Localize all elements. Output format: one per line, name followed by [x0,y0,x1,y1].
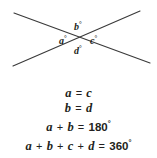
equation-token-var: b [65,101,71,115]
equation-token-op: = [75,87,83,99]
intersecting-lines-svg [0,0,157,82]
equation-list: a = c b = d a + b = 180° a + b + c + d =… [0,86,157,154]
equation-token-deg: ° [128,138,131,147]
equation-token-var: a [65,86,71,100]
equation-token-op: + [77,140,85,152]
angle-label-b: b° [74,21,82,32]
equation-token-num: 360 [109,140,128,152]
equation-token-var: d [86,101,92,115]
equation-token-var: c [68,139,74,153]
degree-symbol: ° [94,34,97,42]
equation-token-var: a [26,139,32,153]
equation-eq-4: a + b + c + d = 360° [0,135,157,154]
equation-token-var: a [46,120,52,134]
equation-token-var: b [47,139,53,153]
equation-token-op: = [74,102,82,114]
degree-symbol: ° [64,34,67,42]
equation-token-var: d [88,139,94,153]
degree-symbol: ° [79,20,82,28]
equation-eq-1: a = c [0,86,157,101]
equation-token-var: c [86,86,92,100]
angle-diagram: a° b° c° d° [0,0,157,82]
equation-token-var: b [67,120,73,134]
vertical-angles-figure: a° b° c° d° a = c b = d a + b = 180° a +… [0,0,157,158]
line-down-right [14,13,150,63]
equation-token-op: + [35,140,43,152]
equation-token-deg: ° [108,119,111,128]
angle-label-c: c° [90,35,97,46]
equation-token-num: 180 [89,121,108,133]
degree-symbol: ° [79,44,82,52]
equation-token-op: + [56,140,64,152]
angle-label-d: d° [74,45,82,56]
equation-token-op: = [77,121,85,133]
angle-label-a: a° [59,35,67,46]
equation-eq-2: b = d [0,101,157,116]
equation-token-op: = [98,140,106,152]
equation-eq-3: a + b = 180° [0,116,157,135]
equation-token-op: + [56,121,64,133]
